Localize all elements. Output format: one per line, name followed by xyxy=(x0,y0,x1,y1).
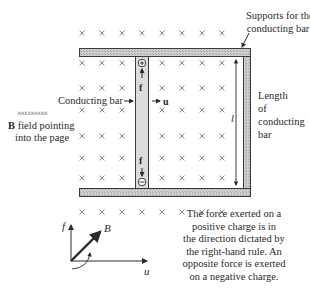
length-label: Length of conducting bar xyxy=(258,89,305,141)
field-label-line2: into the page xyxy=(15,131,69,144)
negative-charge-icon xyxy=(138,178,146,186)
axis-B-label: B xyxy=(104,222,111,235)
top-rail xyxy=(80,49,251,57)
bottom-rail xyxy=(80,189,251,197)
length-symbol: l xyxy=(230,112,235,125)
magnetic-field-crosses xyxy=(80,31,225,215)
field-symbol-B: B xyxy=(8,120,15,131)
supports-label: Supports for the conducting bar xyxy=(246,9,310,35)
supports-pointer xyxy=(242,33,249,47)
force-label-bottom: f xyxy=(139,154,142,167)
support-rails xyxy=(80,49,251,197)
B-vector xyxy=(71,232,100,261)
caption: The force exerted on a positive charge i… xyxy=(158,208,310,283)
force-label-top: f xyxy=(139,81,142,94)
conducting-bar-label: Conducting bar xyxy=(58,94,123,107)
velocity-label: u xyxy=(163,95,169,108)
right-support xyxy=(244,57,251,189)
diagram-canvas: Supports for the conducting bar Conducti… xyxy=(0,0,310,288)
axis-f-label: f xyxy=(62,220,65,233)
positive-charge-icon xyxy=(138,59,146,67)
axis-u-label: u xyxy=(144,265,150,278)
